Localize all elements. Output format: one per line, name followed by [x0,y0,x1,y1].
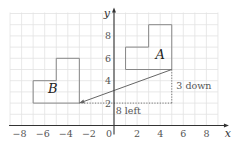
x-tick-label: −2 [82,128,96,139]
x-tick-label: 8 [203,128,209,139]
y-tick-label: 2 [105,98,111,109]
x-tick-label: 6 [180,128,186,139]
arrow-head-icon [79,100,84,104]
y-axis-label: y [103,7,111,20]
coordinate-grid: −8−6−4−2024682468xyAB3 down8 left [0,0,239,146]
x-axis-label: x [225,127,232,140]
y-tick-label: 8 [105,30,111,41]
x-tick-label: −6 [36,128,50,139]
x-tick-label: 4 [157,128,163,139]
translation-diagram: −8−6−4−2024682468xyAB3 down8 left [0,0,239,146]
y-axis-arrow-icon [112,8,116,13]
shape-a-label: A [155,47,165,62]
y-tick-label: 6 [105,53,111,64]
x-tick-label: 2 [134,128,140,139]
shape-b-label: B [47,81,58,96]
labels-layer: −8−6−4−2024682468xyAB3 down8 left [13,7,232,140]
x-tick-label: −8 [13,128,27,139]
x-tick-label: −4 [59,128,73,139]
annotation-8-left: 8 left [116,105,141,116]
annotation-3-down: 3 down [176,80,211,91]
y-tick-label: 4 [105,75,111,86]
x-tick-label: 0 [106,128,112,139]
